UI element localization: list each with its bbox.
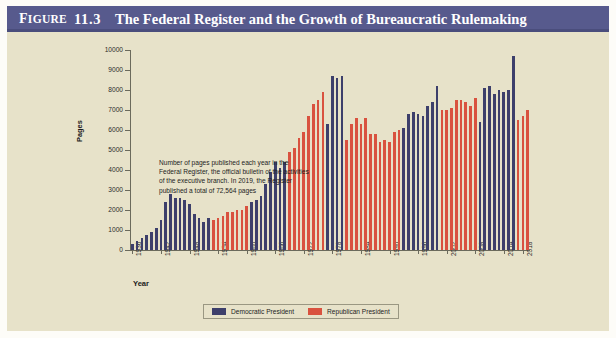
bar [198,218,201,250]
bar [479,122,482,250]
bar [236,210,239,250]
bar [374,134,377,250]
bar [431,102,434,250]
bar [422,116,425,250]
bar [412,112,415,250]
bar [169,194,172,250]
bar [469,106,472,250]
bar [388,142,391,250]
x-tick [275,250,276,254]
y-tick-label: 4000 [89,166,123,173]
bar [402,128,405,250]
bar [212,220,215,250]
legend-item-democratic: Democratic President [212,308,294,315]
bar [460,100,463,250]
x-tick [190,250,191,254]
bar [155,228,158,250]
y-tick-label: 3000 [89,186,123,193]
x-tick [361,250,362,254]
figure-label: FIGURE [19,11,67,27]
bar [341,76,344,250]
bar [436,86,439,250]
bar [255,200,258,250]
x-tick [161,250,162,254]
bar [183,200,186,250]
bar [331,76,334,250]
chart-annotation: Number of pages published each year in t… [159,158,311,195]
bar [369,134,372,250]
bar [502,92,505,250]
bar [445,110,448,250]
y-tick-label: 0 [89,246,123,253]
bar [188,204,191,250]
x-tick [218,250,219,254]
figure-title-bar: FIGURE 11.3 The Federal Register and the… [7,6,609,32]
bar [217,218,220,250]
bar [317,100,320,250]
plot-area: 0100020003000400050006000700080009000100… [7,32,609,331]
bar [207,218,210,250]
bar [474,98,477,250]
y-tick-label: 5000 [89,146,123,153]
x-tick [523,250,524,254]
x-tick [447,250,448,254]
bar [222,216,225,250]
bar [245,206,248,250]
bar [160,220,163,250]
bar [398,130,401,250]
y-axis-title: Pages [75,120,84,142]
bar [145,235,148,250]
bar [355,118,358,250]
y-tick-label: 9000 [89,66,123,73]
bar [512,56,515,250]
x-tick [475,250,476,254]
y-tick-label: 8000 [89,86,123,93]
bar [250,202,253,250]
bar [136,241,139,250]
bar [393,132,396,250]
bar [141,238,144,250]
legend-label-republican: Republican President [327,308,390,315]
bar [426,106,429,250]
x-tick [247,250,248,254]
chart-legend: Democratic President Republican Presiden… [203,304,399,319]
bar [383,140,386,250]
bar [312,104,315,250]
bar [345,140,348,250]
bar [231,212,234,250]
figure-number: 11.3 [74,11,101,28]
y-tick-label: 6000 [89,126,123,133]
y-tick-label: 10000 [89,46,123,53]
bar [522,116,525,250]
bar [464,102,467,250]
bar [179,198,182,250]
bar [488,86,491,250]
bar [260,196,263,250]
x-tick [304,250,305,254]
bar [241,210,244,250]
legend-swatch-republican [308,308,322,315]
bars-layer [130,50,530,250]
x-tick [390,250,391,254]
bar [507,90,510,250]
bar [517,120,520,250]
legend-label-democratic: Democratic President [231,308,294,315]
bar [364,118,367,250]
figure-title: The Federal Register and the Growth of B… [115,11,527,28]
bar [483,88,486,250]
bar [441,110,444,250]
legend-swatch-democratic [212,308,226,315]
bar [326,124,329,250]
bar [150,232,153,250]
bar [193,214,196,250]
bar [202,222,205,250]
chart-panel: 0100020003000400050006000700080009000100… [7,32,609,331]
bar [493,94,496,250]
bar [336,78,339,250]
x-tick [132,250,133,254]
bar [417,114,420,250]
bar [350,124,353,250]
x-tick [504,250,505,254]
y-tick-label: 2000 [89,206,123,213]
bar [131,244,134,250]
